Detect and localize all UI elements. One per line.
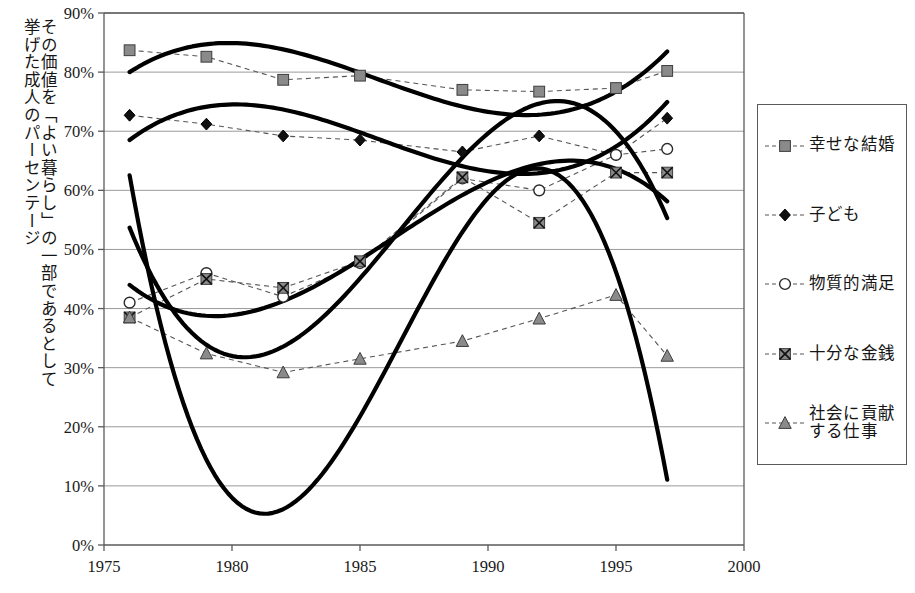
y-tick-label: 90% bbox=[64, 4, 95, 23]
filled-diamond-marker bbox=[124, 109, 135, 121]
x-square-marker bbox=[534, 217, 545, 228]
open-circle-icon bbox=[764, 273, 806, 295]
open-circle-marker bbox=[780, 279, 791, 290]
filled-square-icon bbox=[764, 135, 806, 157]
x-square-marker bbox=[355, 256, 366, 267]
x-square-marker bbox=[201, 274, 212, 285]
x-tick-label: 1990 bbox=[472, 557, 505, 576]
grid-lines bbox=[104, 13, 744, 486]
legend-item-material-satisfaction[interactable]: 物質的満足 bbox=[764, 254, 902, 314]
filled-diamond-marker bbox=[201, 118, 212, 130]
open-circle-marker bbox=[662, 144, 673, 155]
axis-lines bbox=[104, 13, 744, 545]
x-tick-label: 1985 bbox=[344, 557, 377, 576]
trend-line-series-2 bbox=[130, 101, 668, 357]
filled-square-marker bbox=[611, 83, 622, 94]
legend: 幸せな結婚 子ども 物質的満足 十分な金銭 社会に貢献 する仕事 bbox=[757, 104, 907, 465]
legend-label-contribute-society: 社会に貢献 する仕事 bbox=[809, 405, 895, 442]
filled-diamond-marker bbox=[662, 112, 673, 124]
trend-line-series-3 bbox=[130, 161, 668, 316]
open-circle-marker bbox=[124, 297, 135, 308]
filled-square-marker bbox=[780, 140, 791, 151]
open-circle-marker bbox=[534, 185, 545, 196]
legend-label-line-1: 社会に貢献 bbox=[809, 404, 895, 423]
x-square-marker bbox=[780, 348, 791, 359]
open-circle-marker bbox=[611, 149, 622, 160]
legend-label-children: 子ども bbox=[809, 206, 861, 224]
legend-label-material-satisfaction: 物質的満足 bbox=[809, 275, 895, 293]
x-tick-label: 1980 bbox=[216, 557, 249, 576]
filled-square-marker bbox=[201, 51, 212, 62]
y-tick-marks bbox=[98, 13, 104, 545]
x-square-marker bbox=[611, 167, 622, 178]
chart-container: その価値を「よい暮らし」の一部であるとして 挙げた成人のパーセンテージ 0%10… bbox=[0, 0, 915, 593]
filled-triangle-marker bbox=[533, 312, 545, 324]
legend-key-glyph bbox=[764, 412, 806, 434]
y-tick-label: 10% bbox=[64, 477, 95, 496]
filled-square-marker bbox=[355, 70, 366, 81]
dashed-line-series-4 bbox=[130, 295, 668, 372]
legend-label-happy-marriage: 幸せな結婚 bbox=[809, 136, 895, 154]
y-tick-label: 80% bbox=[64, 63, 95, 82]
legend-key-glyph bbox=[764, 273, 806, 295]
legend-label-line-2: する仕事 bbox=[809, 422, 878, 441]
filled-diamond-marker bbox=[780, 209, 791, 221]
legend-item-enough-money[interactable]: 十分な金銭 bbox=[764, 324, 902, 384]
filled-diamond-marker bbox=[278, 130, 289, 142]
filled-diamond-icon bbox=[764, 204, 806, 226]
legend-key-glyph bbox=[764, 343, 806, 365]
legend-key-glyph bbox=[764, 204, 806, 226]
filled-square-marker bbox=[457, 84, 468, 95]
x-tick-label: 1975 bbox=[88, 557, 121, 576]
x-tick-marks bbox=[104, 545, 744, 551]
y-tick-label: 0% bbox=[72, 536, 94, 555]
legend-key-glyph bbox=[764, 135, 806, 157]
filled-square-marker bbox=[124, 45, 135, 56]
x-square-marker bbox=[278, 282, 289, 293]
filled-square-marker bbox=[278, 74, 289, 85]
trend-line-series-4 bbox=[130, 168, 668, 513]
legend-label-enough-money: 十分な金銭 bbox=[809, 345, 895, 363]
y-tick-label: 60% bbox=[64, 181, 95, 200]
filled-square-marker bbox=[534, 86, 545, 97]
y-tick-label: 50% bbox=[64, 240, 95, 259]
y-tick-label: 70% bbox=[64, 122, 95, 141]
dashed-line-series-1 bbox=[130, 115, 668, 155]
x-tick-label: 2000 bbox=[728, 557, 761, 576]
y-tick-label: 40% bbox=[64, 300, 95, 319]
legend-item-children[interactable]: 子ども bbox=[764, 185, 902, 245]
x-tick-label: 1995 bbox=[600, 557, 633, 576]
x-square-marker bbox=[662, 167, 673, 178]
y-tick-labels: 0%10%20%30%40%50%60%70%80%90% bbox=[64, 4, 95, 555]
dashed-line-series-3 bbox=[130, 173, 668, 318]
y-tick-label: 30% bbox=[64, 359, 95, 378]
x-square-icon bbox=[764, 343, 806, 365]
filled-diamond-marker bbox=[534, 130, 545, 142]
filled-square-marker bbox=[662, 66, 673, 77]
x-tick-labels: 197519801985199019952000 bbox=[88, 557, 761, 576]
y-tick-label: 20% bbox=[64, 418, 95, 437]
legend-item-contribute-society[interactable]: 社会に貢献 する仕事 bbox=[764, 393, 902, 453]
x-square-marker bbox=[457, 172, 468, 183]
dashed-connector-lines bbox=[130, 50, 668, 372]
filled-triangle-marker bbox=[456, 335, 468, 347]
legend-item-happy-marriage[interactable]: 幸せな結婚 bbox=[764, 116, 902, 176]
filled-triangle-icon bbox=[764, 412, 806, 434]
